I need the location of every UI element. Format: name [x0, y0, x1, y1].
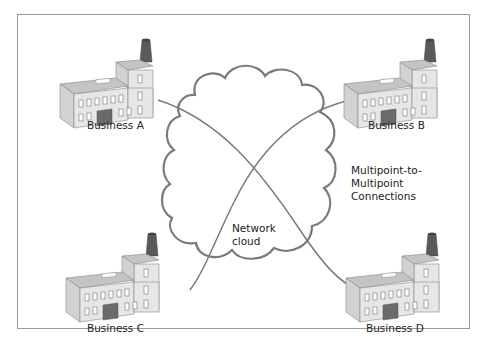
node-label-business-b: Business B — [368, 119, 425, 132]
connections-label-line2: Multipoint — [351, 177, 422, 190]
connections-label-line1: Multipoint-to- — [351, 164, 422, 177]
node-label-business-c: Business C — [87, 322, 144, 335]
factory-icon-d — [346, 233, 439, 323]
cloud-label-line2: cloud — [232, 235, 276, 248]
connections-label: Multipoint-to- Multipoint Connections — [351, 164, 422, 203]
node-label-business-d: Business D — [366, 322, 424, 335]
connections-label-line3: Connections — [351, 190, 422, 203]
factory-icon-a — [60, 39, 153, 129]
diagram-canvas — [0, 0, 502, 364]
node-label-business-a: Business A — [87, 119, 144, 132]
cloud-label-line1: Network — [232, 222, 276, 235]
factory-icon-b — [344, 39, 437, 129]
factory-icon-c — [66, 233, 159, 323]
cloud-label: Network cloud — [232, 222, 276, 248]
